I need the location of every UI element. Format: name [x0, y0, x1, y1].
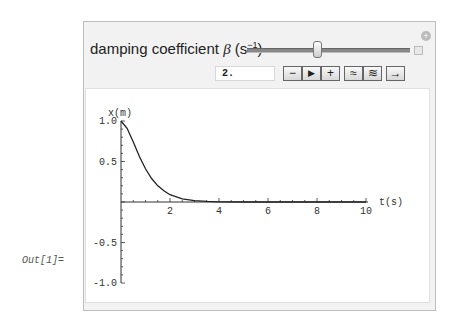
damping-slider-thumb[interactable]: [313, 41, 322, 58]
value-input[interactable]: 2.: [215, 66, 275, 81]
damping-slider-track[interactable]: [247, 48, 410, 53]
plot-area: [85, 88, 430, 303]
slider-label: damping coefficient β (s−1): [90, 40, 263, 58]
slower-button[interactable]: ≋: [363, 66, 382, 81]
decrement-button[interactable]: −: [283, 66, 302, 81]
direction-button[interactable]: →: [386, 66, 405, 81]
play-button[interactable]: ▶: [302, 66, 321, 81]
output-label: Out[1]=: [22, 255, 64, 266]
increment-button[interactable]: +: [321, 66, 340, 81]
unit-open: (s: [231, 40, 248, 57]
animation-controls-toggle-icon[interactable]: [414, 46, 423, 55]
faster-button[interactable]: ≈: [344, 66, 363, 81]
beta-symbol: β: [223, 41, 230, 57]
add-icon[interactable]: +: [421, 31, 431, 41]
label-text: damping coefficient: [90, 40, 223, 57]
